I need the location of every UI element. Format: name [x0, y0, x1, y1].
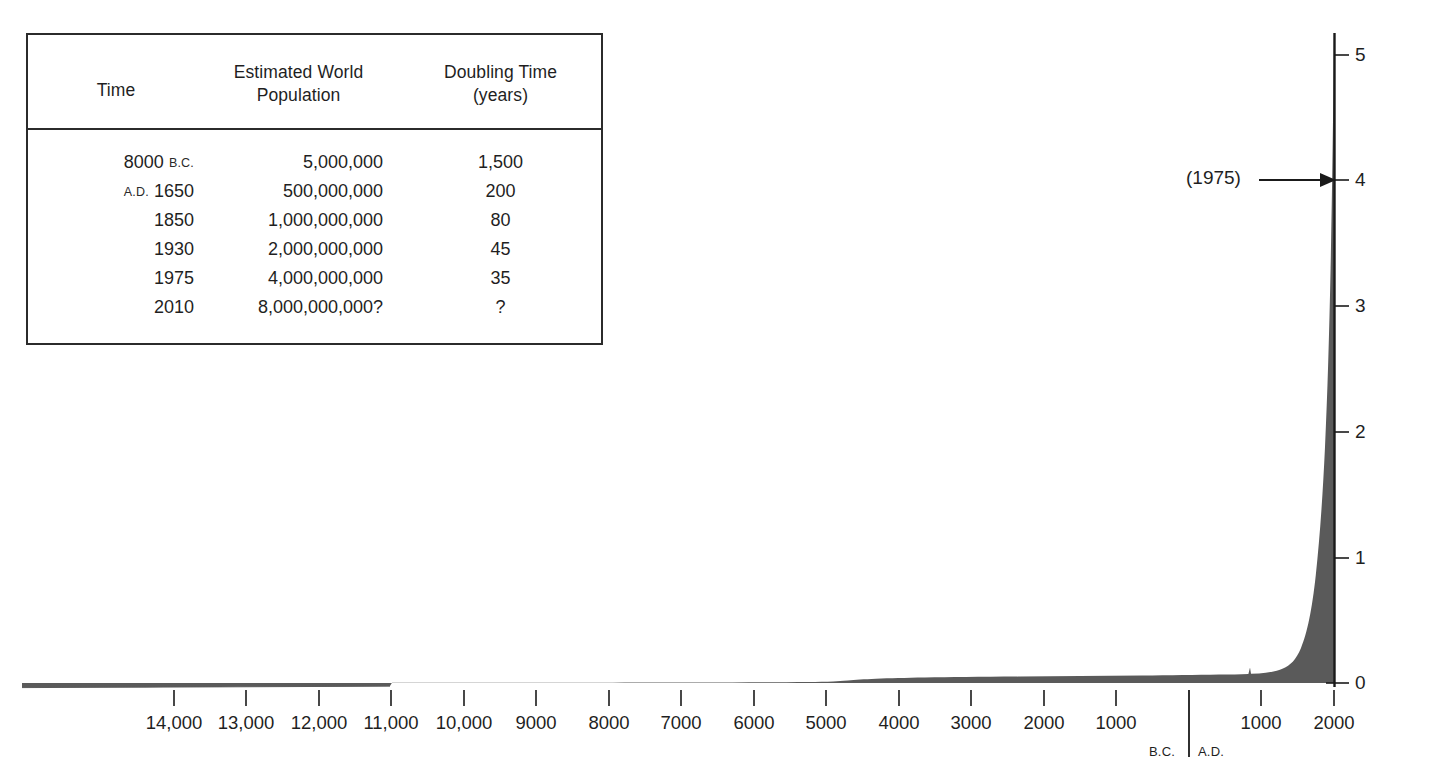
cell-doubling-time: 80: [413, 210, 588, 231]
x-tick-label-2000-ad: 2000: [1313, 712, 1354, 734]
column-header-doubling-time: Doubling Time (years): [413, 61, 588, 107]
cell-time-value: 2010: [154, 297, 194, 317]
x-tick-label-1000-ad: 1000: [1240, 712, 1281, 734]
column-header-doubling-line1: Doubling Time: [413, 61, 588, 84]
table-header-row: Time Estimated World Population Doubling…: [28, 35, 601, 130]
x-axis-era-label-bc: B.C.: [1149, 744, 1175, 759]
population-baseline-band: [22, 686, 390, 687]
x-tick-label-10000: 10,000: [436, 712, 493, 734]
table-row: A.D.1650 500,000,000 200: [28, 181, 601, 210]
cell-doubling-time: 200: [413, 181, 588, 202]
y-tick-label-0: 0: [1355, 672, 1379, 694]
cell-population: 1,000,000,000: [196, 210, 401, 231]
cell-time-value: 1850: [154, 210, 194, 230]
cell-time: 2010: [46, 297, 194, 318]
cell-population: 5,000,000: [196, 152, 401, 173]
cell-time: 1975: [46, 268, 194, 289]
x-tick-label-2000-bc: 2000: [1023, 712, 1064, 734]
table-row: 1975 4,000,000,000 35: [28, 268, 601, 297]
cell-time-value: 1930: [154, 239, 194, 259]
x-tick-label-11000: 11,000: [363, 712, 418, 734]
column-header-doubling-line2: (years): [413, 84, 588, 107]
cell-time-era: A.D.: [124, 185, 149, 199]
cell-time-value: 1650: [154, 181, 194, 201]
cell-time: 1930: [46, 239, 194, 260]
cell-time: 1850: [46, 210, 194, 231]
cell-doubling-time: 45: [413, 239, 588, 260]
y-tick-label-3: 3: [1355, 295, 1379, 317]
annotation-arrow-1975: [1259, 173, 1336, 187]
cell-time: A.D.1650: [46, 181, 194, 202]
cell-time: 8000B.C.: [46, 152, 194, 173]
cell-time-era: B.C.: [169, 156, 194, 170]
cell-time-value: 1975: [154, 268, 194, 288]
x-tick-label-6000: 6000: [733, 712, 774, 734]
x-tick-label-12000: 12,000: [291, 712, 348, 734]
cell-population: 500,000,000: [196, 181, 401, 202]
x-tick-label-8000: 8000: [588, 712, 629, 734]
y-tick-label-1: 1: [1355, 547, 1379, 569]
population-data-table: Time Estimated World Population Doubling…: [26, 33, 603, 345]
cell-population: 8,000,000,000?: [196, 297, 401, 318]
y-tick-label-5: 5: [1355, 44, 1379, 66]
column-header-time: Time: [46, 79, 186, 102]
table-row: 1850 1,000,000,000 80: [28, 210, 601, 239]
table-body: 8000B.C. 5,000,000 1,500 A.D.1650 500,00…: [28, 130, 601, 326]
column-header-population-line1: Estimated World: [196, 61, 401, 84]
table-row: 8000B.C. 5,000,000 1,500: [28, 152, 601, 181]
cell-doubling-time: ?: [413, 297, 588, 318]
column-header-estimated-world-population: Estimated World Population: [196, 61, 401, 107]
table-row: 2010 8,000,000,000? ?: [28, 297, 601, 326]
x-tick-label-14000: 14,000: [146, 712, 203, 734]
x-tick-label-4000: 4000: [878, 712, 919, 734]
cell-population: 2,000,000,000: [196, 239, 401, 260]
cell-time-value: 8000: [124, 152, 164, 172]
x-tick-label-3000: 3000: [950, 712, 991, 734]
column-header-population-line2: Population: [196, 84, 401, 107]
annotation-label-1975: (1975): [1186, 167, 1241, 189]
y-tick-label-4: 4: [1355, 169, 1379, 191]
x-tick-label-7000: 7000: [660, 712, 701, 734]
y-axis-ticks: [1326, 55, 1349, 683]
table-row: 1930 2,000,000,000 45: [28, 239, 601, 268]
x-axis-era-label-ad: A.D.: [1198, 744, 1224, 759]
x-tick-label-1000-bc: 1000: [1095, 712, 1136, 734]
cell-doubling-time: 35: [413, 268, 588, 289]
x-tick-label-9000: 9000: [515, 712, 556, 734]
x-axis-ticks: [174, 690, 1334, 706]
cell-population: 4,000,000,000: [196, 268, 401, 289]
cell-doubling-time: 1,500: [413, 152, 588, 173]
y-tick-label-2: 2: [1355, 421, 1379, 443]
x-tick-label-5000: 5000: [805, 712, 846, 734]
x-tick-label-13000: 13,000: [218, 712, 275, 734]
